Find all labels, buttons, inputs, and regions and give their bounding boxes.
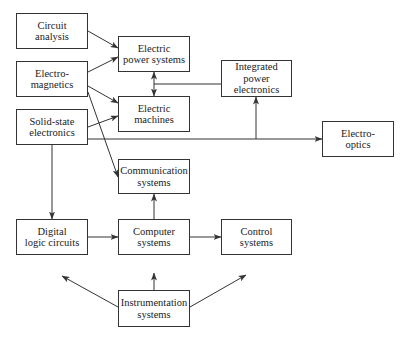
node-computer-systems: Computer systems xyxy=(118,219,190,255)
arrow-electromag-to-power xyxy=(88,57,118,72)
connector-layer xyxy=(0,0,406,341)
arrow-circuit-to-power xyxy=(88,31,118,48)
node-electric-machines: Electric machines xyxy=(118,96,190,132)
node-communication-systems: Communication systems xyxy=(118,159,190,194)
node-instrumentation-systems: Instrumentation systems xyxy=(118,290,190,327)
arrow-instr-to-control xyxy=(190,275,246,307)
node-control-systems: Control systems xyxy=(221,219,292,255)
node-electric-power-systems: Electric power systems xyxy=(118,36,190,72)
node-solid-state-electronics: Solid-state electronics xyxy=(16,109,88,145)
node-digital-logic-circuits: Digital logic circuits xyxy=(16,219,88,255)
arrow-electromag-to-machines xyxy=(88,86,118,103)
arrow-solidstate-to-machines xyxy=(88,116,118,127)
node-integrated-power-electronics: Integrated power electronics xyxy=(221,60,292,97)
node-circuit-analysis: Circuit analysis xyxy=(16,13,88,49)
arrow-instr-to-digital xyxy=(62,276,118,307)
node-electromagnetics: Electro- magnetics xyxy=(16,61,88,97)
node-electro-optics: Electro- optics xyxy=(322,121,394,157)
engineering-subjects-diagram: Circuit analysis Electro- magnetics Soli… xyxy=(0,0,406,341)
arrow-electromag-to-comm xyxy=(88,92,118,177)
